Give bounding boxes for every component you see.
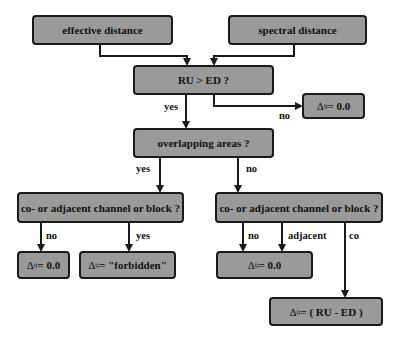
edge-label-no: no <box>246 163 257 174</box>
delta-symbol: Δ <box>27 259 34 271</box>
node-channel-decision-right: co- or adjacent channel or block ? <box>215 192 383 223</box>
delta-symbol: Δ <box>289 306 296 318</box>
node-ru-gt-ed-decision: RU > ED ? <box>133 65 274 95</box>
delta-value: = 0.0 <box>328 100 351 112</box>
delta-value: = 0.0 <box>259 259 282 271</box>
flowchart: effective distance spectral distance RU … <box>0 0 396 344</box>
edge-label-no: no <box>248 230 259 241</box>
edge-label-yes: yes <box>136 163 150 174</box>
edge-label-no: no <box>46 230 57 241</box>
connector-lines <box>0 0 396 344</box>
node-result-ru-minus-ed: Δij = ( RU - ED ) <box>269 297 383 326</box>
node-effective-distance: effective distance <box>32 15 173 45</box>
node-result-delta-zero: Δij = 0.0 <box>302 93 365 119</box>
edge-label-yes: yes <box>136 230 150 241</box>
edge-label-adjacent: adjacent <box>288 230 327 241</box>
delta-value: = "forbidden" <box>99 259 167 271</box>
edge-label-no: no <box>279 110 290 121</box>
node-channel-decision-left: co- or adjacent channel or block ? <box>17 192 184 223</box>
node-label: overlapping areas ? <box>157 137 249 149</box>
node-label: spectral distance <box>258 24 337 36</box>
edge-label-co: co <box>349 230 359 241</box>
delta-symbol: Δ <box>248 259 255 271</box>
node-result-forbidden: Δij = "forbidden" <box>79 251 176 279</box>
node-label: effective distance <box>62 24 142 36</box>
node-label: RU > ED ? <box>178 74 229 86</box>
node-label: co- or adjacent channel or block ? <box>21 202 180 214</box>
node-result-right-zero: Δij = 0.0 <box>216 251 313 279</box>
edge-label-yes: yes <box>164 101 178 112</box>
node-label: co- or adjacent channel or block ? <box>219 202 378 214</box>
delta-value: = 0.0 <box>38 259 61 271</box>
delta-value: = ( RU - ED ) <box>300 306 362 318</box>
node-result-left-zero: Δij = 0.0 <box>17 251 70 279</box>
delta-symbol: Δ <box>88 259 95 271</box>
delta-symbol: Δ <box>317 100 324 112</box>
node-overlapping-areas-decision: overlapping areas ? <box>133 128 274 158</box>
node-spectral-distance: spectral distance <box>228 15 367 45</box>
